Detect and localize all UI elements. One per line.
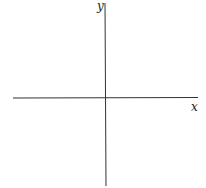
y-axis xyxy=(105,3,106,186)
y-axis-label: y xyxy=(96,0,104,13)
coordinate-plane: y x xyxy=(0,0,206,188)
x-axis-label: x xyxy=(191,100,198,114)
